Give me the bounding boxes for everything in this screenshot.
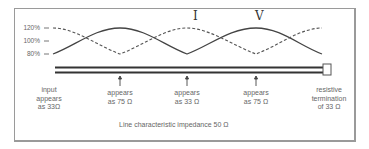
y-label-100: 100% <box>14 37 40 44</box>
y-tick-marks <box>44 28 49 54</box>
caption-line: appears <box>28 95 70 104</box>
transmission-line <box>55 68 323 73</box>
current-curve <box>53 28 322 54</box>
voltage-label: V <box>255 9 264 23</box>
caption-line: input <box>28 86 70 95</box>
caption-line: as 75 Ω <box>234 98 278 107</box>
caption-termination: resistive termination of 33 Ω <box>304 86 354 112</box>
characteristic-impedance-label: Line characteristic impedance 50 Ω <box>119 121 229 128</box>
caption-input: input appears as 33Ω <box>28 86 70 112</box>
caption-line: as 33Ω <box>28 103 70 112</box>
caption-line: as 75 Ω <box>98 98 142 107</box>
caption-line: appears <box>234 89 278 98</box>
termination-resistor <box>323 64 331 75</box>
caption-line: termination <box>304 95 354 104</box>
y-label-80: 80% <box>14 50 40 57</box>
caption-line: as 33 Ω <box>165 98 209 107</box>
caption-line: of 33 Ω <box>304 103 354 112</box>
caption-line: resistive <box>304 86 354 95</box>
y-label-120: 120% <box>14 24 40 31</box>
current-label: I <box>193 9 198 23</box>
caption-point-3: appears as 75 Ω <box>234 89 278 106</box>
caption-line: appears <box>165 89 209 98</box>
position-arrows <box>119 76 258 86</box>
caption-point-2: appears as 33 Ω <box>165 89 209 106</box>
caption-point-1: appears as 75 Ω <box>98 89 142 106</box>
caption-line: appears <box>98 89 142 98</box>
